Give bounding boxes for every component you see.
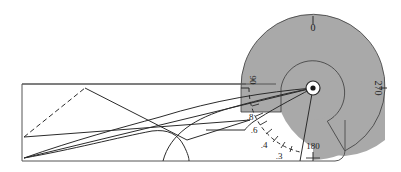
radius-label-08: .8	[247, 112, 254, 122]
diagram-canvas: 0 270 180 90 .8 .6 .4 .3	[0, 0, 401, 172]
radius-label-06: .6	[251, 125, 258, 135]
angle-label-0: 0	[311, 22, 316, 33]
angle-label-270: 270	[373, 81, 384, 96]
radius-label-03: .3	[276, 151, 283, 161]
pivot-hub	[306, 81, 320, 95]
angle-label-180: 180	[306, 141, 320, 151]
radius-label-04: .4	[261, 140, 268, 150]
angle-label-90: 90	[248, 76, 258, 86]
kinematic-diagram-svg: 0 270 180 90 .8 .6 .4 .3	[0, 0, 401, 172]
